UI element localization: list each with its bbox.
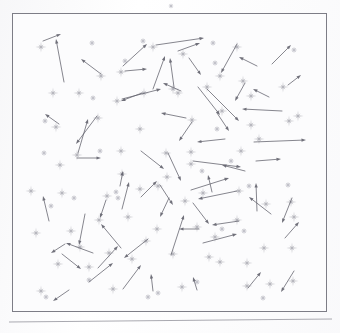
figure-root	[0, 0, 340, 333]
baseline-rule-line	[9, 319, 332, 322]
baseline-rule	[0, 0, 340, 333]
